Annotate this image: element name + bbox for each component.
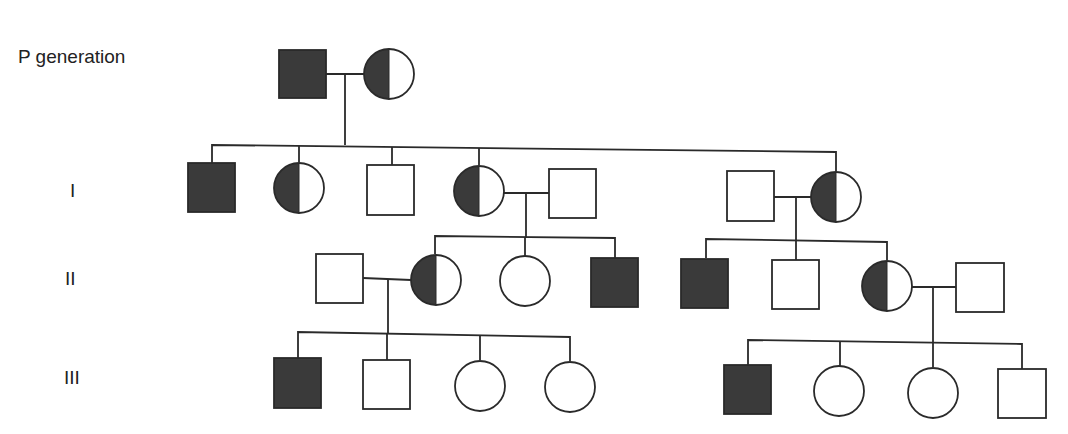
ii2-female-carrier-circle [411, 255, 461, 305]
iii6-female-unaffected-circle [814, 366, 864, 416]
iii5-male-affected-square [724, 365, 771, 414]
iii4-female-unaffected-circle [545, 362, 595, 412]
i1-male-affected-square [188, 163, 235, 212]
i5-male-unaffected-square [549, 169, 596, 218]
pedigree-chart [0, 0, 1068, 434]
iii2-male-unaffected-square [363, 360, 410, 409]
ii5-male-affected-square [681, 259, 728, 308]
i3-male-unaffected-square [367, 165, 414, 215]
pedigree-lines [212, 74, 1022, 369]
i2-female-carrier-circle [274, 163, 324, 213]
ii7-female-carrier-circle [862, 261, 912, 311]
ii4-male-affected-square [591, 258, 638, 307]
p-female-carrier-circle [364, 49, 414, 99]
iii7-female-unaffected-circle [908, 368, 958, 418]
iii1-male-affected-square [274, 358, 321, 408]
i4-female-carrier-circle [454, 166, 504, 216]
ii6-male-unaffected-square [772, 260, 819, 309]
ii1-male-unaffected-square [316, 254, 363, 303]
p-male-affected-square [279, 50, 326, 98]
iii3-female-unaffected-circle [455, 361, 505, 411]
ii8-male-unaffected-square [956, 263, 1004, 312]
ii3-female-unaffected-circle [500, 256, 550, 306]
i6-male-unaffected-square [727, 171, 774, 221]
iii8-male-unaffected-square [998, 369, 1046, 418]
i7-female-carrier-circle [811, 172, 861, 222]
